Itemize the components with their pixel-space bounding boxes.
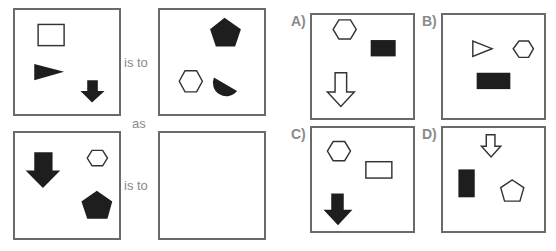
option-c-shapes bbox=[312, 128, 413, 231]
option-a-label: A) bbox=[291, 13, 306, 29]
filled-pentagon-icon bbox=[210, 18, 241, 47]
option-d-shapes bbox=[443, 128, 544, 231]
filled-down-arrow-icon bbox=[26, 152, 61, 188]
outline-hexagon-icon bbox=[179, 71, 202, 92]
option-d[interactable] bbox=[441, 126, 546, 233]
connector-is-to-bottom: is to bbox=[124, 178, 148, 193]
filled-rectangle-icon bbox=[458, 169, 474, 197]
filled-down-arrow-icon bbox=[80, 80, 104, 102]
outline-down-arrow-icon bbox=[327, 73, 354, 107]
panel-top-right bbox=[158, 8, 266, 116]
outline-rectangle-icon bbox=[38, 24, 64, 45]
outline-hexagon-icon bbox=[87, 150, 107, 165]
option-a-shapes bbox=[312, 15, 413, 118]
panel-answer-blank bbox=[158, 131, 266, 240]
option-d-label: D) bbox=[422, 126, 437, 142]
outline-down-arrow-icon bbox=[481, 135, 500, 157]
filled-down-arrow-icon bbox=[324, 193, 353, 225]
option-b[interactable] bbox=[441, 13, 546, 120]
outline-triangle-icon bbox=[473, 41, 492, 56]
option-b-shapes bbox=[443, 15, 544, 118]
option-c[interactable] bbox=[310, 126, 415, 233]
filled-half-circle-icon bbox=[213, 77, 237, 96]
panel-bottom-left bbox=[13, 131, 121, 240]
option-b-label: B) bbox=[422, 13, 437, 29]
option-a[interactable] bbox=[310, 13, 415, 120]
option-c-label: C) bbox=[291, 126, 306, 142]
panel-bottom-left-shapes bbox=[15, 133, 119, 238]
outline-hexagon-icon bbox=[513, 41, 533, 57]
connector-is-to-top: is to bbox=[124, 55, 148, 70]
filled-triangle-icon bbox=[34, 64, 64, 80]
outline-hexagon-icon bbox=[333, 20, 356, 39]
filled-rectangle-icon bbox=[477, 73, 511, 89]
filled-rectangle-icon bbox=[371, 40, 396, 56]
panel-top-right-shapes bbox=[160, 10, 264, 114]
outline-pentagon-icon bbox=[501, 180, 524, 201]
panel-top-left-shapes bbox=[15, 10, 119, 114]
panel-top-left bbox=[13, 8, 121, 116]
filled-pentagon-icon bbox=[81, 191, 112, 219]
outline-rectangle-icon bbox=[366, 162, 392, 178]
connector-as: as bbox=[132, 116, 146, 131]
outline-hexagon-icon bbox=[327, 142, 350, 161]
